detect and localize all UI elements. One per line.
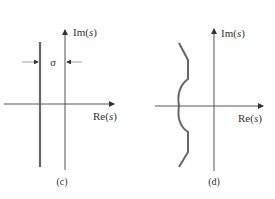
real-axis-label: Re(s) xyxy=(238,112,262,125)
figure: σ Im(s) Re(s) (c) Im(s) Re(s) (d) xyxy=(0,0,275,199)
real-axis-label: Re(s) xyxy=(93,110,117,123)
imag-axis-label: Im(s) xyxy=(221,27,245,40)
caption-c: (c) xyxy=(56,176,67,188)
imag-axis-label: Im(s) xyxy=(73,26,97,39)
panel-c: σ Im(s) Re(s) (c) xyxy=(4,26,117,188)
curved-contour xyxy=(178,43,188,167)
panel-d: Im(s) Re(s) (d) xyxy=(155,27,263,188)
caption-d: (d) xyxy=(208,176,220,188)
sigma-label: σ xyxy=(50,56,56,68)
